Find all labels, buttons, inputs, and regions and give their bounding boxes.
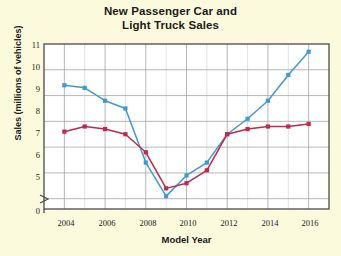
- data-point-trucks-2005: [83, 86, 87, 90]
- data-point-trucks-2004: [62, 83, 66, 87]
- data-point-cars-2013: [245, 127, 249, 131]
- data-point-cars-2006: [103, 127, 107, 131]
- data-point-cars-2010: [184, 181, 188, 185]
- data-point-cars-2014: [266, 124, 270, 128]
- chart-figure: New Passenger Car and Light Truck Sales …: [0, 0, 341, 256]
- data-point-trucks-2010: [184, 173, 188, 177]
- data-point-trucks-2016: [307, 50, 311, 54]
- data-point-cars-2016: [307, 122, 311, 126]
- plot-area: [0, 0, 341, 256]
- data-point-trucks-2015: [286, 73, 290, 77]
- data-point-cars-2015: [286, 124, 290, 128]
- data-point-trucks-2006: [103, 99, 107, 103]
- data-point-cars-2005: [83, 124, 87, 128]
- data-point-cars-2009: [164, 186, 168, 190]
- data-point-cars-2008: [144, 150, 148, 154]
- data-point-trucks-2014: [266, 99, 270, 103]
- data-point-cars-2012: [225, 132, 229, 136]
- data-point-cars-2007: [123, 132, 127, 136]
- data-point-trucks-2008: [144, 160, 148, 164]
- data-point-trucks-2011: [205, 160, 209, 164]
- data-point-trucks-2007: [123, 106, 127, 110]
- data-point-cars-2011: [205, 168, 209, 172]
- data-point-trucks-2013: [245, 117, 249, 121]
- data-point-trucks-2009: [164, 194, 168, 198]
- data-point-cars-2004: [62, 130, 66, 134]
